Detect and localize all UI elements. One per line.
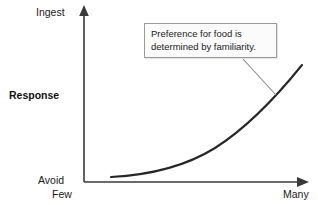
response-curve (111, 65, 302, 177)
x-axis-right-label: Many (283, 189, 309, 200)
y-axis-arrowhead (79, 5, 89, 16)
axis-title-response: Response (9, 90, 59, 101)
callout-leader-line (243, 59, 276, 95)
x-axis-arrowhead (297, 177, 309, 187)
chart-figure: Ingest Avoid Few Many Response Preferenc… (0, 0, 318, 205)
annotation-text: Preference for food is determined by fam… (151, 28, 271, 53)
y-axis-bottom-label: Avoid (38, 175, 64, 186)
y-axis-top-label: Ingest (36, 7, 65, 18)
annotation-callout: Preference for food is determined by fam… (144, 23, 277, 58)
x-axis-left-label: Few (52, 189, 72, 200)
